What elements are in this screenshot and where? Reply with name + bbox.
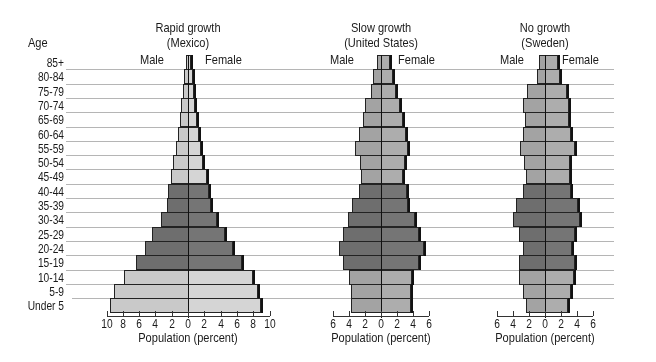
us-female-label: Female [398,52,435,67]
center-axis-line [381,55,382,318]
x-tick [545,311,546,316]
x-tick [349,311,350,316]
female-bar [188,184,209,199]
x-tick [381,311,382,316]
x-tick-label: 10 [262,317,279,331]
x-tick [188,311,189,316]
age-label: 45-49 [22,170,65,184]
female-bar [545,127,571,142]
age-label: 60-64 [22,128,65,142]
age-label: 70-74 [22,99,65,113]
age-label: 55-59 [22,142,65,156]
female-bar [545,141,575,156]
male-bar [513,212,546,227]
male-bar [352,198,382,213]
sweden-title: No growth (Sweden) [498,20,592,50]
female-bar [188,169,207,184]
female-bar [381,98,400,113]
male-bar [526,169,546,184]
x-tick [139,311,140,316]
female-bar [381,84,396,99]
female-bar [545,298,568,313]
male-bar [348,212,382,227]
x-tick [221,311,222,316]
male-bar [349,270,382,285]
male-bar [520,141,546,156]
male-bar [343,227,382,242]
male-bar [145,241,189,256]
male-bar [519,227,546,242]
female-bar [545,55,558,70]
age-label: 50-54 [22,156,65,170]
female-bar [545,155,570,170]
male-bar [114,284,189,299]
sweden-title-line1: No growth [498,20,592,35]
x-tick [497,311,498,316]
us-title-line1: Slow growth [326,20,437,35]
male-bar [167,198,189,213]
x-tick [123,311,124,316]
x-tick [253,311,254,316]
female-bar [381,227,419,242]
center-axis-line [188,55,189,318]
male-bar [168,184,189,199]
male-bar [161,212,189,227]
sweden-male-label: Male [500,52,524,67]
female-bar [545,212,580,227]
female-bar [381,184,407,199]
x-tick [513,311,514,316]
center-axis-line [545,55,546,318]
female-bar [381,198,408,213]
age-label: 35-39 [22,199,65,213]
male-bar [524,155,546,170]
female-bar [381,112,403,127]
female-bar [381,241,424,256]
us-male-label: Male [330,52,354,67]
age-label: 10-14 [22,271,65,285]
mexico-subtitle: (Mexico) [137,35,239,50]
x-tick [333,311,334,316]
mexico-xlabel: Population (percent) [129,330,248,345]
gridline [66,69,614,70]
female-bar [188,212,217,227]
female-bar [381,255,419,270]
female-bar [188,241,233,256]
age-label: 30-34 [22,213,65,227]
female-bar [381,69,393,84]
x-tick [429,311,430,316]
us-subtitle: (United States) [326,35,437,50]
female-bar [188,127,199,142]
female-bar [545,270,574,285]
age-label: 25-29 [22,228,65,242]
female-bar [381,169,403,184]
x-tick [413,311,414,316]
female-bar [188,98,195,113]
female-bar [188,155,203,170]
x-tick-label: 10 [99,317,116,331]
age-label: 75-79 [22,85,65,99]
female-bar [545,255,575,270]
male-bar [516,198,546,213]
age-label: 20-24 [22,242,65,256]
female-bar [545,98,569,113]
female-bar [381,155,405,170]
us-xlabel: Population (percent) [322,330,441,345]
female-bar [188,255,242,270]
x-tick [155,311,156,316]
female-bar [188,227,225,242]
mexico-male-label: Male [140,52,164,67]
female-bar [188,141,201,156]
age-label: 85+ [22,56,65,70]
mexico-female-label: Female [205,52,242,67]
female-bar [545,169,570,184]
age-label: 15-19 [22,256,65,270]
x-tick [397,311,398,316]
male-bar [136,255,189,270]
female-bar [381,270,412,285]
male-bar [363,112,382,127]
female-bar [545,241,572,256]
x-tick [561,311,562,316]
male-bar [519,255,546,270]
female-bar [188,270,253,285]
male-bar [359,127,382,142]
